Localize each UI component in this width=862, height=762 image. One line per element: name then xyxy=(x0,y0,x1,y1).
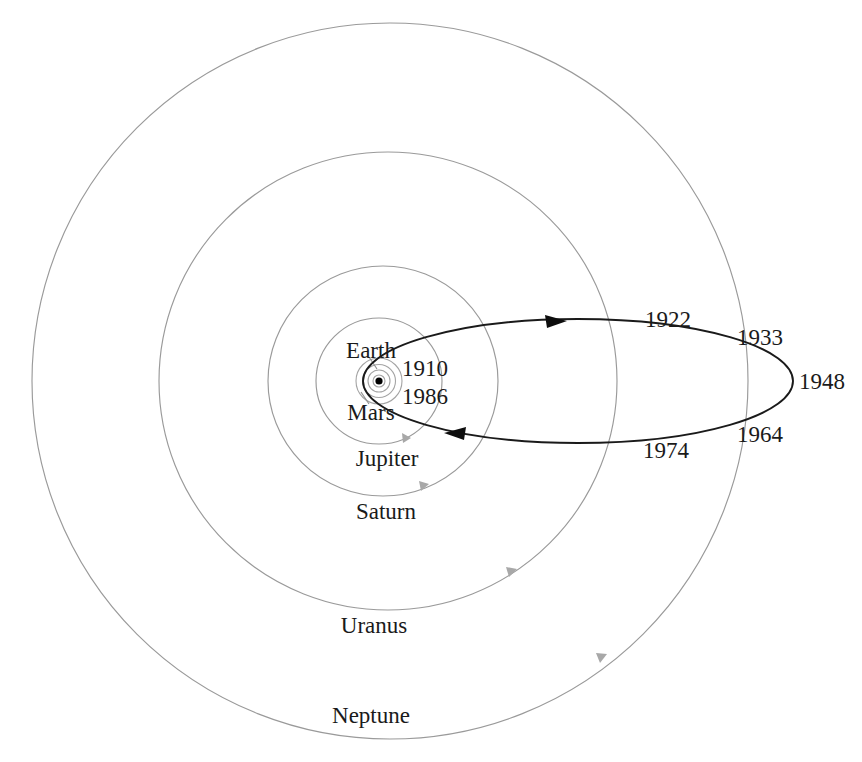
orbital-diagram-canvas: Earth Mars Jupiter Saturn Uranus Neptune… xyxy=(0,0,862,762)
planet-marker-jupiter xyxy=(402,433,411,443)
year-label-1964: 1964 xyxy=(737,423,783,446)
planet-label-mars: Mars xyxy=(347,401,394,424)
comet-direction-arrow-outbound xyxy=(545,315,567,328)
planet-label-earth: Earth xyxy=(346,339,396,362)
orbit-circle-uranus xyxy=(159,152,617,610)
planet-label-neptune: Neptune xyxy=(332,704,410,727)
comet-orbit-ellipse xyxy=(363,319,793,443)
year-label-1910: 1910 xyxy=(402,357,448,380)
year-label-1986: 1986 xyxy=(402,385,448,408)
year-label-1922: 1922 xyxy=(645,308,691,331)
planet-label-jupiter: Jupiter xyxy=(356,447,419,470)
comet-direction-arrows xyxy=(444,315,567,440)
planet-marker-neptune xyxy=(596,653,607,663)
orbit-diagram-svg xyxy=(0,0,862,762)
year-label-1974: 1974 xyxy=(643,439,689,462)
comet-orbit-path xyxy=(363,319,793,443)
sun-dot-icon xyxy=(375,377,382,384)
planet-position-markers xyxy=(402,433,607,663)
year-label-1948: 1948 xyxy=(799,370,845,393)
planet-label-saturn: Saturn xyxy=(356,500,416,523)
year-label-1933: 1933 xyxy=(737,326,783,349)
comet-direction-arrow-inbound xyxy=(444,427,466,440)
sun-marker xyxy=(375,377,382,384)
planet-label-uranus: Uranus xyxy=(341,614,407,637)
